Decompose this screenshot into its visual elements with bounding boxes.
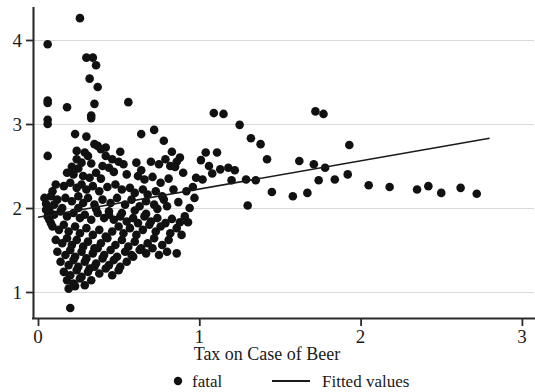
data-point (164, 174, 173, 183)
data-point (130, 206, 139, 215)
data-point (168, 147, 177, 156)
data-point (72, 236, 81, 245)
data-point (118, 236, 127, 245)
data-point (87, 159, 96, 168)
y-axis-ticks-group: 1234 (13, 30, 35, 303)
data-point (129, 252, 138, 261)
data-point (156, 222, 165, 231)
x-tick-label-2: 2 (356, 326, 366, 347)
data-point (295, 157, 304, 166)
data-point (330, 175, 339, 184)
legend-marker-fatal-icon (174, 377, 182, 385)
data-point (122, 170, 131, 179)
data-point (69, 170, 78, 179)
data-point (153, 214, 162, 223)
legend-label-fatal: fatal (192, 372, 222, 391)
data-point (345, 141, 354, 150)
data-point (184, 218, 193, 227)
data-point (413, 185, 422, 194)
data-point (103, 183, 112, 192)
data-point (103, 234, 112, 243)
data-point (311, 107, 320, 116)
data-point (140, 175, 149, 184)
legend-label-fitted-values: Fitted values (322, 372, 409, 391)
data-point (385, 183, 394, 192)
data-point (66, 304, 75, 313)
data-point (268, 188, 277, 197)
data-point (198, 175, 207, 184)
data-point (145, 221, 154, 230)
data-point (71, 282, 80, 291)
data-point (174, 198, 183, 207)
data-point (147, 158, 156, 167)
data-point (71, 130, 80, 139)
data-point (113, 194, 122, 203)
data-point (119, 160, 128, 169)
data-point (58, 204, 67, 213)
data-point (142, 210, 151, 219)
data-point (263, 155, 272, 164)
data-point (87, 215, 96, 224)
data-point (40, 194, 49, 203)
x-axis-title: Tax on Case of Beer (194, 344, 341, 364)
data-point (155, 251, 164, 260)
data-point (235, 121, 244, 130)
data-point (156, 179, 165, 188)
data-point (303, 189, 312, 198)
data-point (90, 100, 99, 109)
data-point (63, 103, 72, 112)
data-point (210, 109, 219, 118)
data-point (98, 195, 107, 204)
data-point (190, 194, 199, 203)
data-point (93, 83, 102, 92)
chart-figure: 1234 0123 Tax on Case of Beer fatal Fitt… (0, 0, 535, 392)
data-point (87, 114, 96, 123)
data-point (56, 257, 65, 266)
data-point (118, 209, 127, 218)
data-point (230, 166, 239, 175)
scatter-plot-canvas: 1234 0123 Tax on Case of Beer fatal Fitt… (0, 0, 535, 392)
data-point (310, 160, 319, 169)
data-point (95, 226, 104, 235)
data-point (163, 247, 172, 256)
data-point (92, 61, 101, 70)
data-point (110, 168, 119, 177)
data-point (364, 181, 373, 190)
data-point (53, 247, 62, 256)
data-point (76, 14, 85, 23)
data-point (289, 192, 298, 201)
data-point (48, 187, 57, 196)
x-tick-label-0: 0 (33, 326, 43, 347)
x-axis-ticks-group: 0123 (33, 318, 526, 347)
data-point (208, 169, 217, 178)
data-point (168, 215, 177, 224)
data-point (132, 158, 141, 167)
data-point (153, 205, 162, 214)
data-point (47, 219, 56, 228)
data-point (124, 98, 133, 107)
data-point (343, 170, 352, 179)
data-point (176, 153, 185, 162)
data-point (101, 264, 110, 273)
y-tick-label-3: 3 (13, 114, 23, 135)
data-point (472, 189, 481, 198)
data-point (84, 194, 93, 203)
data-point (84, 152, 93, 161)
data-point (105, 207, 114, 216)
data-point (163, 202, 172, 211)
data-point (172, 249, 181, 258)
data-point (95, 187, 104, 196)
data-points-group (40, 14, 481, 312)
data-point (43, 152, 52, 161)
data-point (216, 165, 225, 174)
data-point (437, 189, 446, 198)
data-point (213, 148, 222, 157)
data-point (150, 126, 159, 135)
data-point (106, 246, 115, 255)
data-point (43, 99, 52, 108)
data-point (242, 175, 251, 184)
data-point (72, 147, 81, 156)
data-point (201, 148, 210, 157)
data-point (148, 244, 157, 253)
data-point (82, 224, 91, 233)
